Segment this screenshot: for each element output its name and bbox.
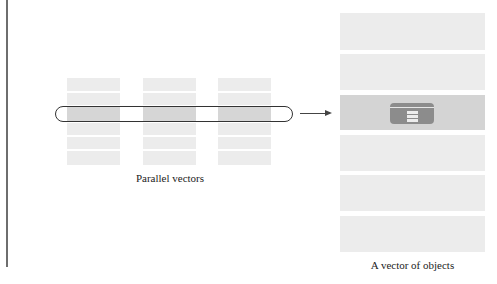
vector-cell [143,151,196,165]
vector-cell [218,93,271,105]
left-border-line [6,0,8,267]
vector-cell [143,123,196,135]
vector-of-objects-label: A vector of objects [335,259,490,271]
parallel-vectors-label: Parallel vectors [95,172,245,184]
row-selection-outline [55,106,293,122]
vector-cell [67,78,120,91]
object-row [340,216,485,252]
arrow-head-icon [325,110,332,116]
vector-cell [143,78,196,91]
vector-cell [143,93,196,105]
object-row-highlighted [340,95,485,130]
arrow-right-icon [300,113,326,114]
object-row [340,54,485,90]
vector-cell [218,78,271,91]
vector-cell [218,123,271,135]
object-row [340,13,485,50]
vector-cell [67,137,120,149]
vector-cell [218,137,271,149]
vector-cell [67,151,120,165]
object-record-icon [390,103,434,124]
vector-cell [218,151,271,165]
vector-cell [67,123,120,135]
vector-cell [67,93,120,105]
object-row [340,175,485,211]
vector-cell [143,137,196,149]
object-row [340,135,485,171]
